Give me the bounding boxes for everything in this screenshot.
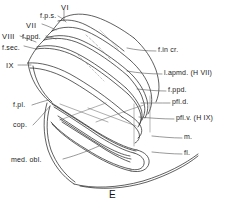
label-f-in-cr: f.in cr. — [158, 46, 178, 53]
leader-f-sec — [24, 46, 36, 49]
leader-med-obl — [63, 146, 99, 159]
contour-lobule-ix-lower — [28, 63, 124, 112]
label-cop: cop. — [13, 121, 27, 128]
fissure-f-sec — [37, 46, 126, 88]
label-viii: VIII — [2, 33, 15, 41]
contour-lobule-vi-top — [63, 14, 134, 38]
contour-band-vi-vii — [52, 27, 130, 60]
label-med-obl: med. obl. — [11, 156, 42, 163]
guide-cross-4 — [60, 103, 106, 120]
folia-lower-lobe-1 — [58, 116, 130, 156]
panel-letter: E — [109, 189, 116, 200]
contour-lower-lobe-top — [50, 102, 137, 150]
label-l-apmd: l.apmd. (H VII) — [164, 69, 212, 76]
contour-hemisphere-outer — [134, 38, 159, 102]
label-ix: IX — [6, 62, 14, 70]
leader-pfl-v — [139, 117, 174, 119]
contour-band-vii-viii-b — [36, 40, 44, 49]
figure-drawing — [0, 0, 233, 208]
label-pfl-v: pfl.v. (H IX) — [176, 114, 213, 121]
contour-lower-lobe-bottom-b — [51, 122, 130, 169]
label-fl: fl. — [184, 149, 190, 156]
label-m: m. — [184, 133, 192, 140]
leader-fl — [152, 152, 182, 154]
label-vi: VI — [61, 4, 69, 12]
label-pfl-d: pfl.d. — [172, 98, 188, 105]
label-f-pl: f.pl. — [13, 101, 25, 108]
leader-f-in-cr — [127, 48, 156, 51]
label-vii: VII — [26, 22, 36, 30]
label-f-ppd-right: f.ppd. — [168, 86, 187, 93]
label-f-p-s: f.p.s. — [40, 12, 56, 19]
contour-lobe-tip-inner — [130, 153, 144, 170]
contour-band-viii-ix-b — [28, 49, 36, 63]
folia-mark-1 — [86, 35, 110, 59]
label-f-sec: f.sec. — [2, 44, 20, 51]
label-f-ppd-left: f.ppd. — [22, 33, 41, 40]
leader-m — [152, 136, 182, 138]
folia-mark-2 — [78, 55, 104, 81]
anatomical-figure: f.p.s. VI VII f.ppd. VIII f.sec. IX f.pl… — [0, 0, 233, 208]
leader-f-ppd-r — [137, 89, 166, 91]
contour-med-obl-b — [80, 156, 198, 188]
leader-vii — [42, 24, 56, 30]
contour-med-obl — [74, 154, 198, 187]
